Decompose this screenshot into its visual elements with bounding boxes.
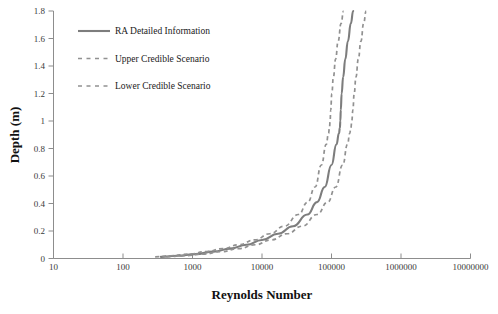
y-axis-title: Depth (m) (7, 107, 22, 164)
y-tick-label: 0.4 (34, 199, 46, 209)
x-tick-label: 10 (49, 262, 59, 272)
legend-label-2: Upper Credible Scenario (115, 54, 210, 64)
y-tick-label: 0.8 (34, 144, 46, 154)
chart-container: 00.20.40.60.811.21.41.61.8 1010010001000… (0, 0, 498, 314)
y-tick-label: 1.8 (34, 6, 46, 16)
x-axis-title: Reynolds Number (212, 287, 313, 302)
x-tick-label: 10000 (251, 262, 274, 272)
x-tick-label: 1000 (184, 262, 203, 272)
series-line-ra-detailed-information (161, 11, 353, 257)
y-tick-label: 0.6 (34, 171, 46, 181)
y-tick-label: 1.6 (34, 34, 46, 44)
y-tick-label: 1.2 (34, 89, 45, 99)
axes-group (54, 11, 471, 259)
legend-label-3: Lower Credible Scenario (115, 81, 211, 91)
y-tick-label: 1 (41, 116, 46, 126)
chart-legend: RA Detailed InformationUpper Credible Sc… (78, 26, 211, 91)
y-tick-label: 0 (41, 254, 46, 264)
x-tick-label: 1000000 (385, 262, 417, 272)
x-tick-label: 100000 (318, 262, 346, 272)
y-axis-ticks: 00.20.40.60.811.21.41.61.8 (34, 6, 54, 264)
y-tick-label: 1.4 (34, 61, 46, 71)
x-tick-label: 100 (116, 262, 130, 272)
series-line-lower-credible-scenario (155, 11, 343, 257)
legend-label-1: RA Detailed Information (115, 26, 210, 36)
data-series-group (155, 11, 366, 257)
series-line-upper-credible-scenario (166, 11, 366, 257)
x-axis-ticks: 10100100010000100000100000010000000 (49, 254, 489, 273)
x-tick-label: 10000000 (453, 262, 490, 272)
reynolds-depth-plot: 00.20.40.60.811.21.41.61.8 1010010001000… (0, 0, 498, 314)
y-tick-label: 0.2 (34, 226, 45, 236)
